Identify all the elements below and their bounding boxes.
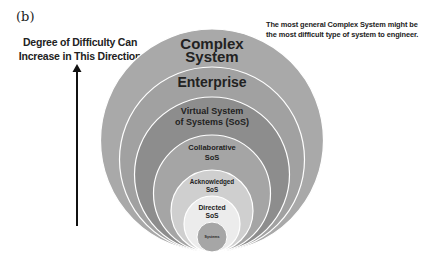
label-directed-line-2: SoS	[205, 212, 219, 219]
label-acknowledged-line-2: SoS	[206, 186, 218, 193]
nested-systems-diagram: Complex System Enterprise Virtual System…	[0, 0, 441, 261]
label-directed-line-1: Directed	[198, 204, 225, 211]
label-virtual-line-1: Virtual System	[181, 106, 243, 116]
label-enterprise: Enterprise	[177, 74, 246, 90]
label-collaborative-line-1: Collaborative	[188, 143, 236, 152]
label-virtual-line-2: of Systems (SoS)	[175, 117, 249, 127]
label-collaborative-line-2: SoS	[205, 153, 220, 162]
label-acknowledged-line-1: Acknowledged	[190, 178, 235, 186]
up-arrow-icon	[73, 64, 82, 226]
label-complex-line-2: System	[185, 48, 238, 65]
label-systems: Systems	[205, 235, 220, 239]
